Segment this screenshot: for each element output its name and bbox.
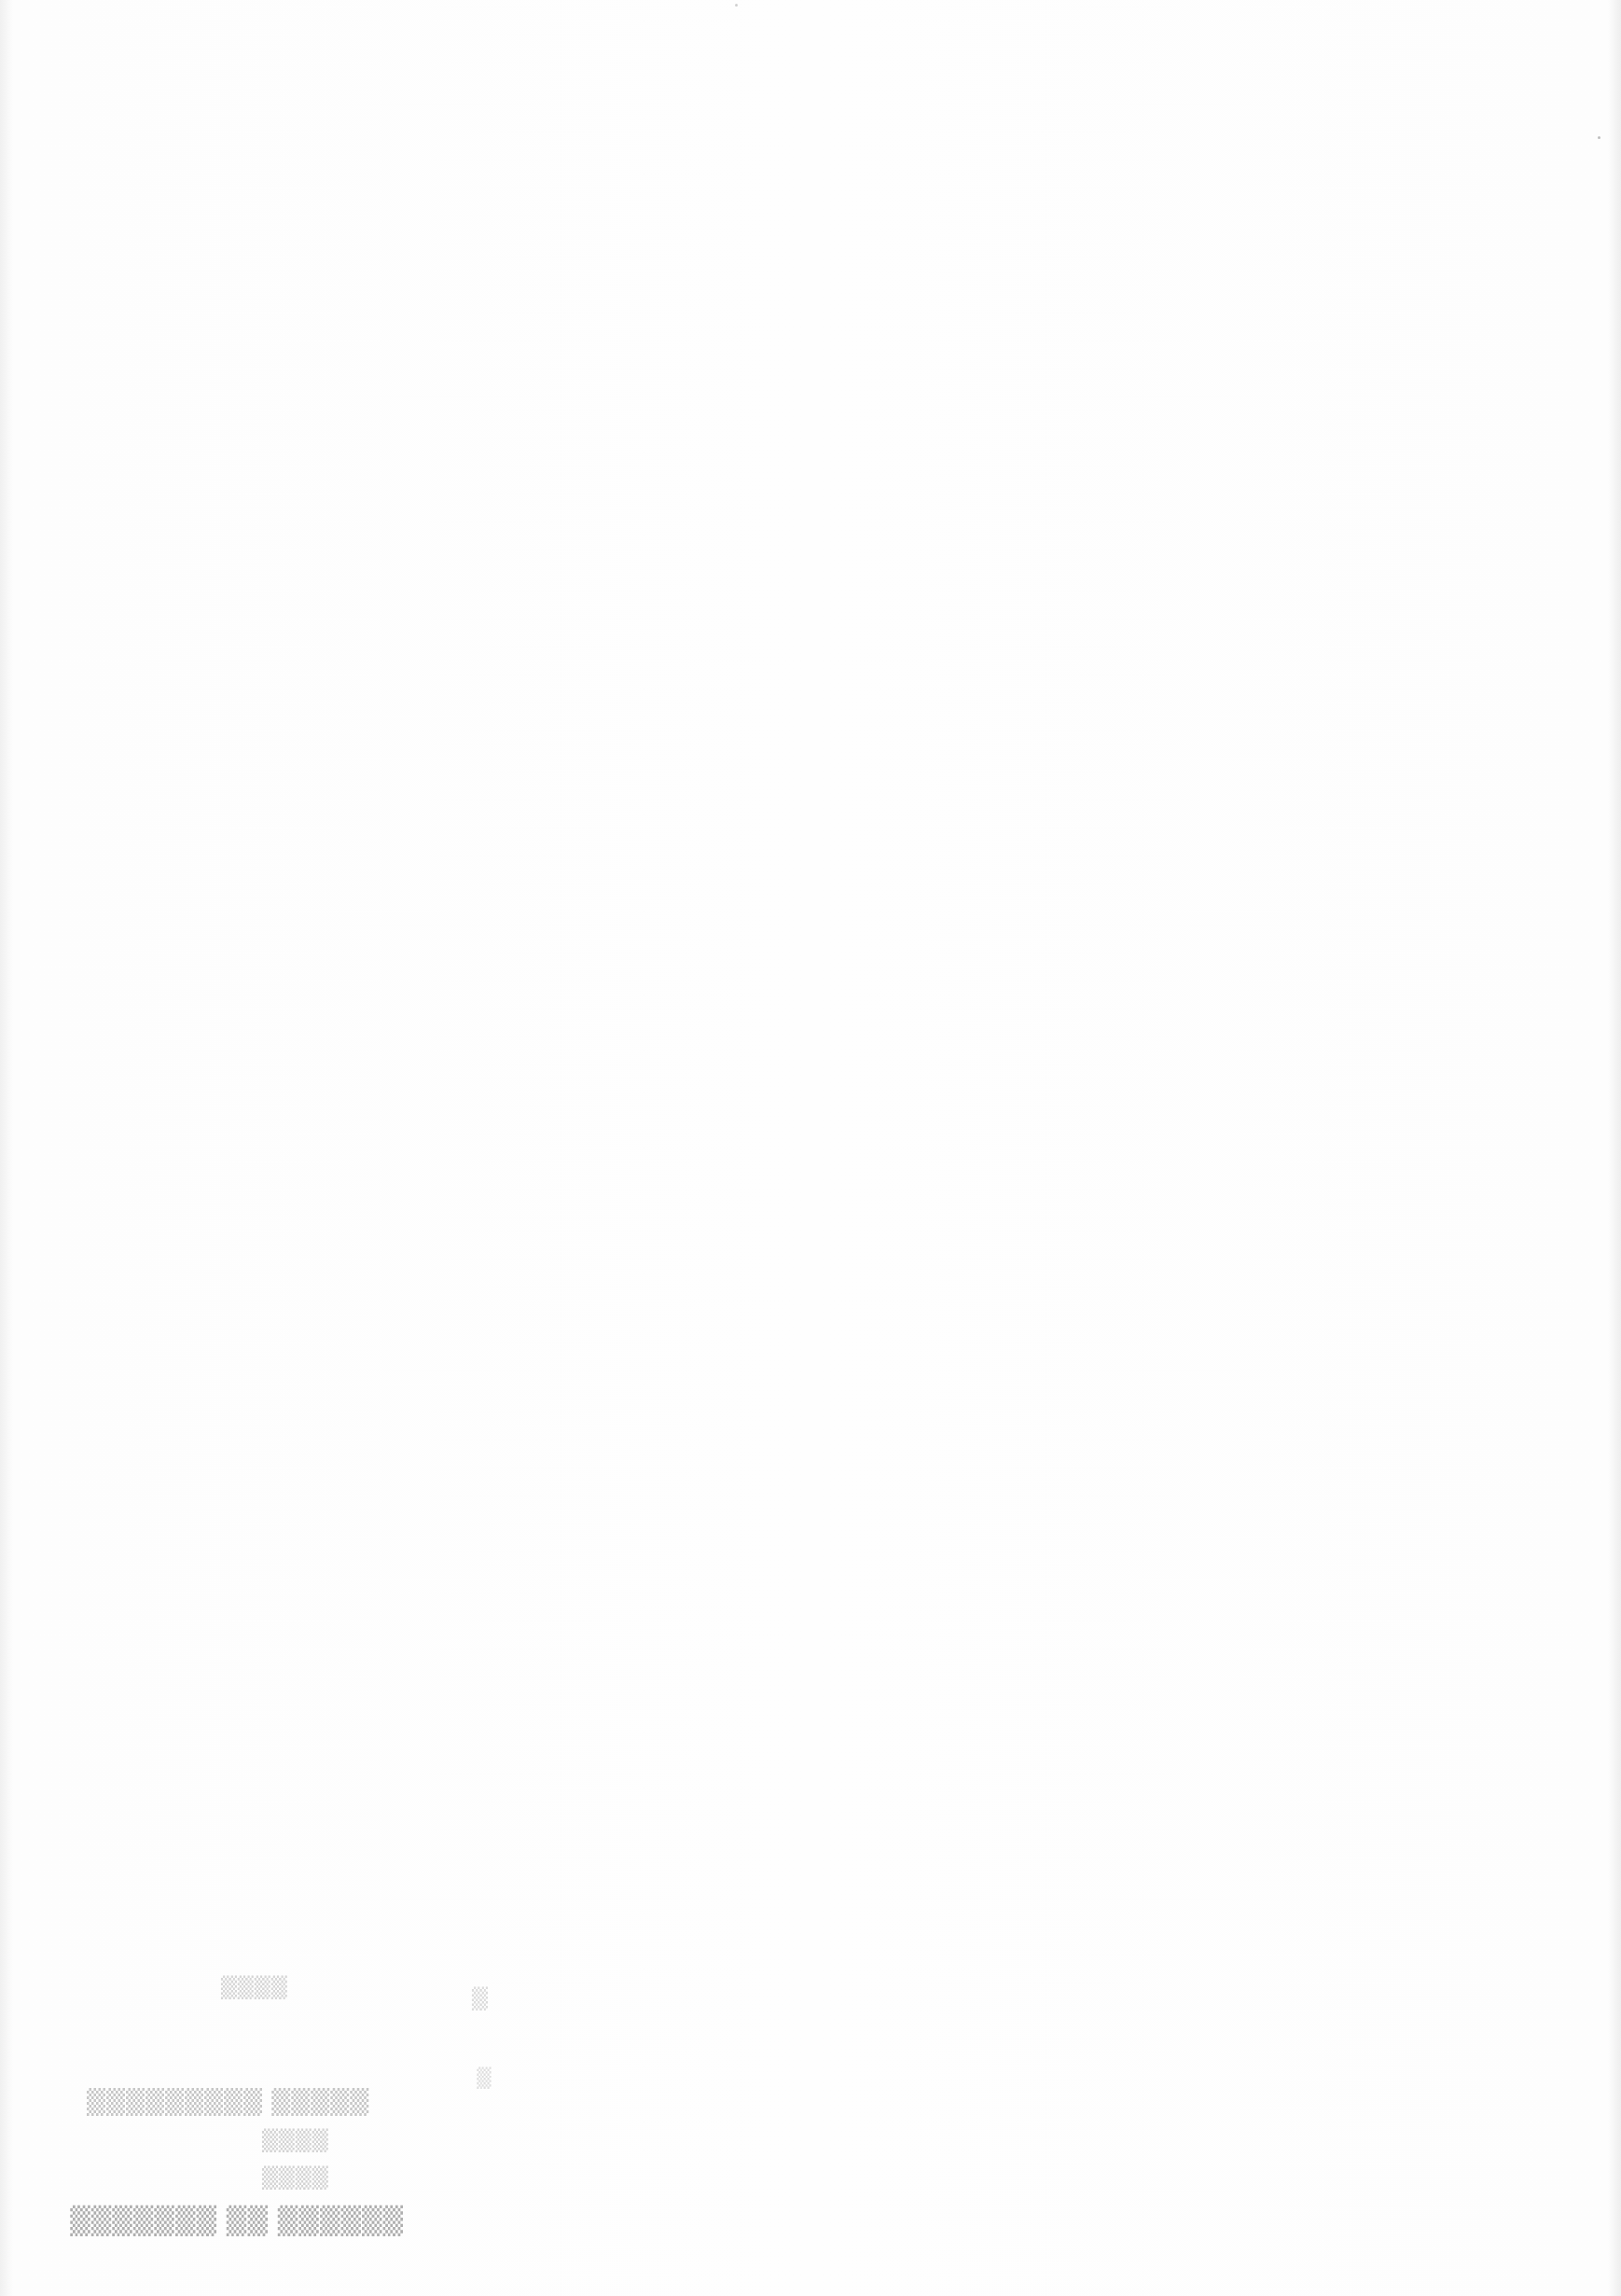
- bleed-through-text: ▒▒▒▒: [261, 2166, 401, 2190]
- bleed-through-mark: ▒: [471, 1987, 488, 2011]
- bleed-through-mark: ▒: [476, 2066, 491, 2089]
- bleed-through-text: ▒▒▒▒: [220, 1976, 287, 1999]
- bleed-through-text: ▒▒▒▒▒▒ ▒▒ ▒▒▒▒▒▒▒: [114, 2206, 403, 2236]
- bleed-through-text: ▒▒▒▒▒ ▒▒▒▒▒▒▒▒▒: [86, 2088, 403, 2116]
- scanned-page: ▒▒▒▒ ▒▒▒▒▒ ▒▒▒▒▒▒▒▒▒ ▒▒▒▒ ▒▒▒▒ ▒▒▒▒▒▒ ▒▒…: [0, 0, 1621, 2296]
- bleed-through-text: ▒▒▒▒: [261, 2129, 401, 2152]
- scan-speck: [1598, 136, 1600, 139]
- scan-speck: [735, 4, 738, 7]
